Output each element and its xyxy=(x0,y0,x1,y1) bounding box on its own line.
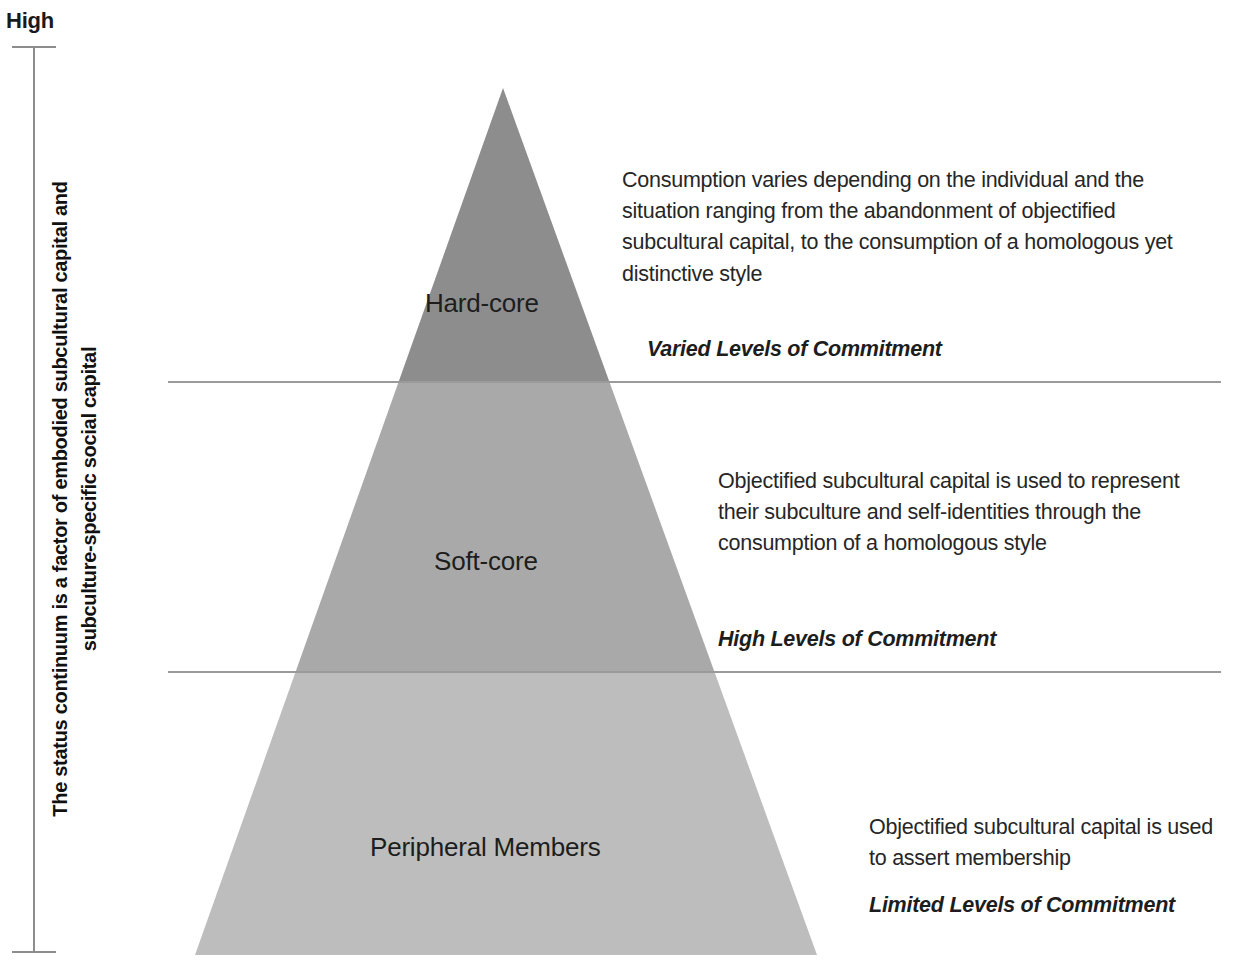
divider-line-lower xyxy=(168,671,1221,673)
annotation-commitment-peripheral-members: Limited Levels of Commitment xyxy=(869,893,1175,918)
annotation-body-soft-core: Objectified subcultural capital is used … xyxy=(718,466,1223,560)
annotation-commitment-hard-core: Varied Levels of Commitment xyxy=(647,337,942,362)
pyramid-tier-soft-core xyxy=(296,381,714,671)
pyramid-label-peripheral-members: Peripheral Members xyxy=(370,832,601,863)
annotation-commitment-soft-core: High Levels of Commitment xyxy=(718,627,996,652)
annotation-body-peripheral-members: Objectified subcultural capital is used … xyxy=(869,812,1229,874)
annotation-body-hard-core: Consumption varies depending on the indi… xyxy=(622,165,1222,290)
pyramid-label-soft-core: Soft-core xyxy=(434,546,538,577)
pyramid-label-hard-core: Hard-core xyxy=(425,288,539,319)
divider-line-upper xyxy=(168,381,1221,383)
pyramid-tier-hard-core xyxy=(399,88,609,381)
status-continuum-pyramid-diagram: High The status continuum is a factor of… xyxy=(0,0,1238,979)
pyramid-tier-peripheral-members xyxy=(195,671,817,955)
